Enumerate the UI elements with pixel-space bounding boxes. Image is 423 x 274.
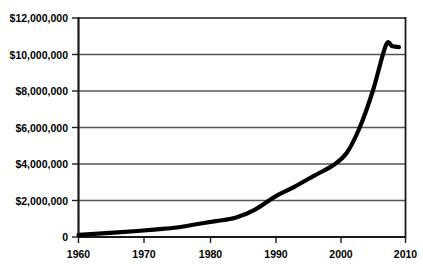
y-tick-label: $10,000,000: [10, 49, 69, 61]
y-tick-label: 0: [62, 231, 68, 243]
y-tick-label: $6,000,000: [15, 122, 68, 134]
x-tick-label: 2000: [329, 248, 353, 260]
x-tick-label: 1990: [264, 248, 288, 260]
y-tick-label: $4,000,000: [15, 158, 68, 170]
y-tick-label: $12,000,000: [10, 12, 69, 24]
x-tick-label: 1980: [199, 248, 223, 260]
y-tick-label: $2,000,000: [15, 195, 68, 207]
chart-container: $12,000,000 $10,000,000 $8,000,000 $6,00…: [0, 0, 423, 274]
line-chart: $12,000,000 $10,000,000 $8,000,000 $6,00…: [0, 0, 423, 274]
x-tick-label: 1970: [132, 248, 156, 260]
y-tick-label: $8,000,000: [15, 85, 68, 97]
x-tick-label: 2010: [394, 248, 418, 260]
x-tick-label: 1960: [67, 248, 91, 260]
